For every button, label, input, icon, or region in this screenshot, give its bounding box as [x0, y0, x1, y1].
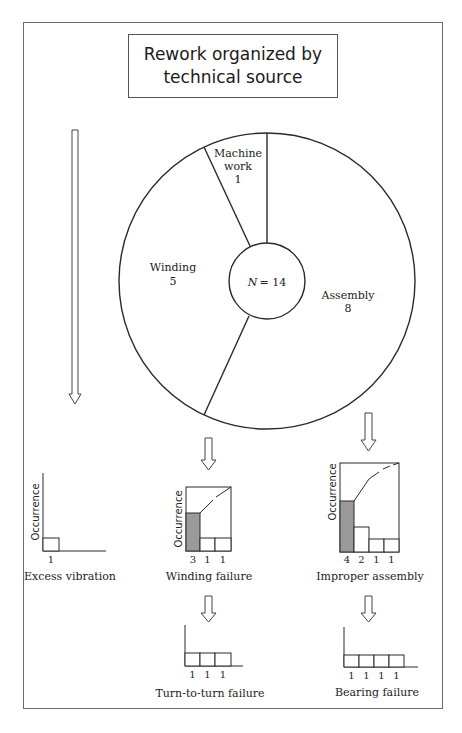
bar — [43, 538, 59, 551]
segment-value-assembly: 8 — [345, 302, 352, 315]
bar-value: 1 — [189, 669, 195, 680]
bar — [374, 655, 389, 667]
y-axis-label: Occurrence — [173, 490, 184, 547]
center-value: = 14 — [259, 276, 286, 289]
divider-winding-assembly — [204, 316, 249, 415]
diagram-svg: Machine work 1 Assembly 8 Winding 5 N= 1… — [0, 0, 462, 733]
diagram-canvas: Rework organized by technical source Mac… — [0, 0, 462, 733]
chart-excess-vibration: Occurrence 1 Excess vibration — [24, 473, 116, 583]
bar — [359, 655, 374, 667]
bar — [215, 538, 231, 551]
bar-value: 1 — [393, 670, 399, 681]
segment-value-machine-work: 1 — [235, 173, 242, 186]
bar — [369, 539, 384, 552]
bar-value: 1 — [220, 669, 226, 680]
arrow-down-icon — [69, 130, 81, 404]
arrow-down-icon — [361, 596, 376, 622]
segment-label-assembly: Assembly — [321, 289, 376, 302]
chart-title: Turn-to-turn failure — [155, 687, 264, 700]
bar — [354, 527, 369, 552]
segment-label-winding: Winding — [150, 261, 196, 274]
bar-value: 1 — [388, 554, 394, 565]
bar — [185, 653, 200, 666]
bar-value: 1 — [373, 554, 379, 565]
bar-highlight — [186, 513, 200, 551]
donut-center-label: N= 14 — [247, 276, 286, 289]
bar-value: 3 — [190, 554, 196, 565]
bar-value: 1 — [204, 669, 210, 680]
bar — [200, 538, 215, 551]
bar — [384, 539, 399, 552]
chart-title: Winding failure — [166, 570, 252, 583]
chart-bearing-failure: 1 1 1 1 Bearing failure — [335, 627, 419, 699]
chart-title: Improper assembly — [316, 570, 424, 583]
bar — [200, 653, 215, 666]
segment-label-machine-work-2: work — [224, 160, 252, 173]
chart-winding-failure: Occurrence 3 1 1 Winding failure — [166, 487, 252, 583]
arrow-down-icon — [361, 413, 376, 451]
bar-value: 1 — [204, 554, 210, 565]
bar — [215, 653, 231, 666]
bar-value: 1 — [348, 670, 354, 681]
bar — [389, 655, 404, 667]
bar — [344, 655, 359, 667]
bar-value: 1 — [220, 554, 226, 565]
chart-turn-to-turn-failure: 1 1 1 Turn-to-turn failure — [155, 625, 264, 700]
arrow-down-icon — [201, 596, 216, 622]
y-axis-label: Occurrence — [30, 483, 41, 540]
segment-label-machine-work: Machine — [214, 147, 262, 160]
arrow-down-icon — [201, 438, 216, 470]
bar-value: 1 — [363, 670, 369, 681]
bar-highlight — [340, 501, 354, 552]
chart-title: Excess vibration — [24, 570, 116, 583]
bar-value: 2 — [358, 554, 364, 565]
segment-value-winding: 5 — [170, 275, 177, 288]
bar-value: 4 — [344, 554, 350, 565]
y-axis-label: Occurrence — [327, 463, 338, 520]
bar-value: 1 — [48, 554, 54, 565]
center-variable: N — [247, 276, 258, 289]
chart-improper-assembly: Occurrence 4 2 1 1 Improper assembly — [316, 463, 424, 583]
chart-title: Bearing failure — [335, 686, 419, 699]
bar-value: 1 — [378, 670, 384, 681]
